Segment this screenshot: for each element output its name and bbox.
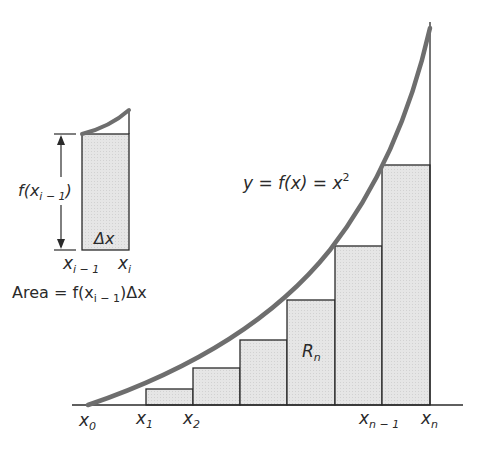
rectangle-6 (382, 165, 430, 405)
rectangle-5 (335, 246, 382, 405)
x-tick-labels: x0 x1 x2 xn − 1 xn (78, 408, 438, 433)
inset-tick-left: xi − 1 (62, 253, 99, 276)
tick-xn-minus-1: xn − 1 (358, 408, 399, 431)
inset-curve (82, 110, 129, 134)
approximating-rectangles (146, 165, 430, 405)
arrow-up-icon (57, 135, 65, 145)
rectangle-2 (193, 368, 240, 405)
inset-width-label: Δx (92, 229, 115, 248)
curve-label: y = f(x) = x2 (242, 171, 350, 193)
inset-height-label: f(xi − 1) (18, 181, 72, 203)
tick-x1: x1 (135, 408, 153, 431)
tick-xn: xn (420, 408, 438, 431)
rectangle-3 (240, 340, 287, 405)
inset-single-rectangle: f(xi − 1) Δx xi − 1 xi Area = f(xi − 1)Δ… (12, 110, 147, 305)
tick-x2: x2 (182, 408, 200, 431)
tick-x0: x0 (78, 410, 96, 433)
riemann-sum-diagram: y = f(x) = x2 Rn x0 x1 x2 xn − 1 xn f(xi… (0, 0, 477, 449)
inset-tick-right: xi (117, 253, 131, 276)
area-formula: Area = f(xi − 1)Δx (12, 283, 147, 305)
rectangle-1 (146, 389, 193, 405)
arrow-down-icon (57, 239, 65, 249)
